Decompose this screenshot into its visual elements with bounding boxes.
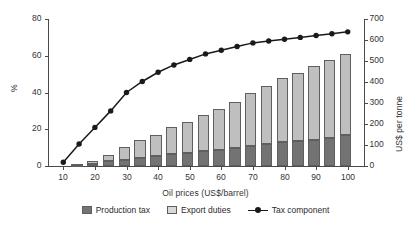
line-marker-tax-component — [298, 35, 303, 40]
line-marker-tax-component — [203, 51, 208, 56]
line-marker-tax-component — [329, 31, 334, 36]
line-marker-tax-component — [266, 38, 271, 43]
line-marker-tax-component — [124, 90, 129, 95]
line-marker-tax-component — [155, 70, 160, 75]
line-marker-tax-component — [345, 29, 350, 34]
line-series-tax-component — [0, 0, 411, 230]
line-marker-tax-component — [282, 37, 287, 42]
line-marker-tax-component — [219, 48, 224, 53]
line-marker-tax-component — [313, 33, 318, 38]
line-marker-tax-component — [108, 108, 113, 113]
line-marker-tax-component — [76, 141, 81, 146]
line-marker-tax-component — [234, 44, 239, 49]
line-marker-tax-component — [92, 125, 97, 130]
chart-figure: % US$ per tonne Oil prices (US$/barrel) … — [0, 0, 411, 230]
line-marker-tax-component — [171, 62, 176, 67]
line-marker-tax-component — [61, 160, 66, 165]
line-marker-tax-component — [250, 40, 255, 45]
line-marker-tax-component — [140, 79, 145, 84]
line-marker-tax-component — [187, 57, 192, 62]
